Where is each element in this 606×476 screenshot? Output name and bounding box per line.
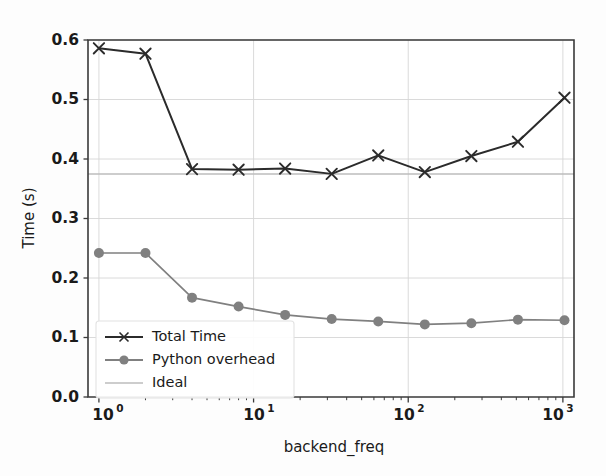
python-overhead-marker-0: [94, 248, 104, 258]
python-overhead-marker-3: [234, 302, 244, 312]
python-overhead-marker-6: [373, 316, 383, 326]
circle-marker-icon: [119, 355, 128, 364]
svg-text:2: 2: [417, 402, 424, 414]
python-overhead-marker-2: [187, 293, 197, 303]
y-tick-label-5: 0.5: [52, 90, 79, 108]
python-overhead-marker-10: [559, 315, 569, 325]
y-tick-label-2: 0.2: [52, 269, 79, 287]
svg-text:0: 0: [116, 402, 123, 414]
chart-figure: 0.0 0.1 0.2 0.3 0.4 0.5 0.6 10 0 10 1 10…: [0, 0, 606, 476]
legend-label-total-time: Total Time: [151, 328, 226, 344]
python-overhead-marker-7: [420, 319, 430, 329]
python-overhead-marker-5: [327, 314, 337, 324]
svg-text:10: 10: [393, 406, 415, 424]
legend-label-python-overhead: Python overhead: [152, 351, 275, 367]
svg-text:10: 10: [542, 406, 564, 424]
python-overhead-marker-8: [466, 318, 476, 328]
legend-label-ideal: Ideal: [152, 374, 187, 390]
y-tick-label-6: 0.6: [52, 31, 79, 49]
svg-text:1: 1: [267, 402, 274, 414]
x-axis-title: backend_freq: [284, 438, 385, 457]
svg-text:3: 3: [566, 402, 573, 414]
svg-text:10: 10: [92, 406, 114, 424]
chart-legend[interactable]: Total Time Python overhead Ideal: [96, 321, 294, 398]
chart-canvas: 0.0 0.1 0.2 0.3 0.4 0.5 0.6 10 0 10 1 10…: [0, 0, 606, 476]
y-axis-title: Time (s): [20, 188, 38, 250]
y-tick-label-4: 0.4: [52, 150, 80, 168]
y-tick-label-0: 0.0: [52, 388, 80, 406]
python-overhead-marker-9: [513, 315, 523, 325]
python-overhead-marker-1: [140, 248, 150, 258]
python-overhead-marker-4: [280, 310, 290, 320]
y-tick-label-1: 0.1: [52, 328, 79, 346]
y-tick-label-3: 0.3: [52, 209, 79, 227]
svg-text:10: 10: [243, 406, 265, 424]
